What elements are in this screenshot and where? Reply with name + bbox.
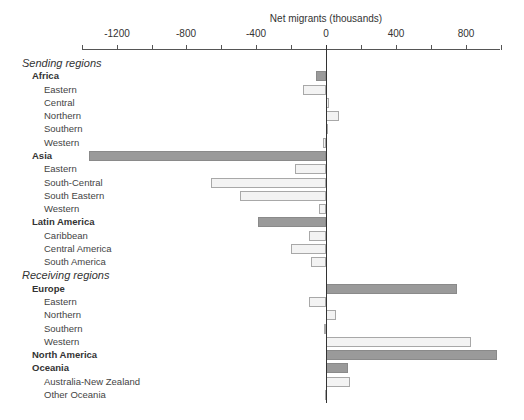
region-label: Asia bbox=[32, 150, 52, 162]
migration-bar-chart: Net migrants (thousands) -1200-800-40004… bbox=[0, 0, 524, 420]
subregion-label: Eastern bbox=[44, 296, 77, 308]
x-tick-label: 0 bbox=[323, 28, 329, 39]
region-label: Oceania bbox=[32, 362, 69, 374]
bar bbox=[326, 310, 336, 320]
bar bbox=[326, 363, 348, 373]
subregion-label: Western bbox=[44, 203, 79, 215]
bar bbox=[295, 164, 326, 174]
bar bbox=[326, 337, 471, 347]
x-axis-line bbox=[82, 49, 500, 50]
bar bbox=[309, 231, 326, 241]
bar bbox=[326, 377, 350, 387]
bar bbox=[319, 204, 326, 214]
region-label: North America bbox=[32, 349, 97, 361]
section-label: Receiving regions bbox=[22, 269, 109, 281]
subregion-label: Northern bbox=[44, 110, 81, 122]
subregion-label: Northern bbox=[44, 309, 81, 321]
zero-line bbox=[326, 45, 327, 403]
subregion-label: Eastern bbox=[44, 163, 77, 175]
subregion-label: Other Oceania bbox=[44, 389, 106, 401]
subregion-label: South-Central bbox=[44, 177, 103, 189]
bar bbox=[316, 71, 326, 81]
subregion-label: Caribbean bbox=[44, 230, 88, 242]
subregion-label: Southern bbox=[44, 323, 83, 335]
x-tick-label: -1200 bbox=[104, 28, 130, 39]
subregion-label: Eastern bbox=[44, 84, 77, 96]
bar bbox=[211, 178, 326, 188]
bar bbox=[311, 257, 326, 267]
subregion-label: Central America bbox=[44, 243, 112, 255]
subregion-label: Central bbox=[44, 97, 75, 109]
region-label: Latin America bbox=[32, 216, 94, 228]
bar bbox=[258, 217, 326, 227]
x-axis-title: Net migrants (thousands) bbox=[270, 13, 382, 24]
region-label: Africa bbox=[32, 70, 59, 82]
subregion-label: Western bbox=[44, 137, 79, 149]
subregion-label: Western bbox=[44, 336, 79, 348]
region-label: Europe bbox=[32, 283, 65, 295]
bar bbox=[291, 244, 326, 254]
subregion-label: South Eastern bbox=[44, 190, 104, 202]
bar bbox=[326, 350, 497, 360]
x-tick bbox=[501, 45, 502, 50]
x-tick-label: -400 bbox=[246, 28, 266, 39]
bar bbox=[309, 297, 326, 307]
bar bbox=[240, 191, 326, 201]
bar bbox=[303, 85, 326, 95]
x-tick-label: 400 bbox=[388, 28, 405, 39]
subregion-label: Southern bbox=[44, 123, 83, 135]
x-tick-label: -800 bbox=[176, 28, 196, 39]
x-tick-label: 800 bbox=[458, 28, 475, 39]
bar bbox=[326, 284, 457, 294]
bar bbox=[326, 111, 339, 121]
subregion-label: South America bbox=[44, 256, 106, 268]
bar bbox=[89, 151, 326, 161]
subregion-label: Australia-New Zealand bbox=[44, 376, 140, 388]
section-label: Sending regions bbox=[22, 57, 102, 69]
